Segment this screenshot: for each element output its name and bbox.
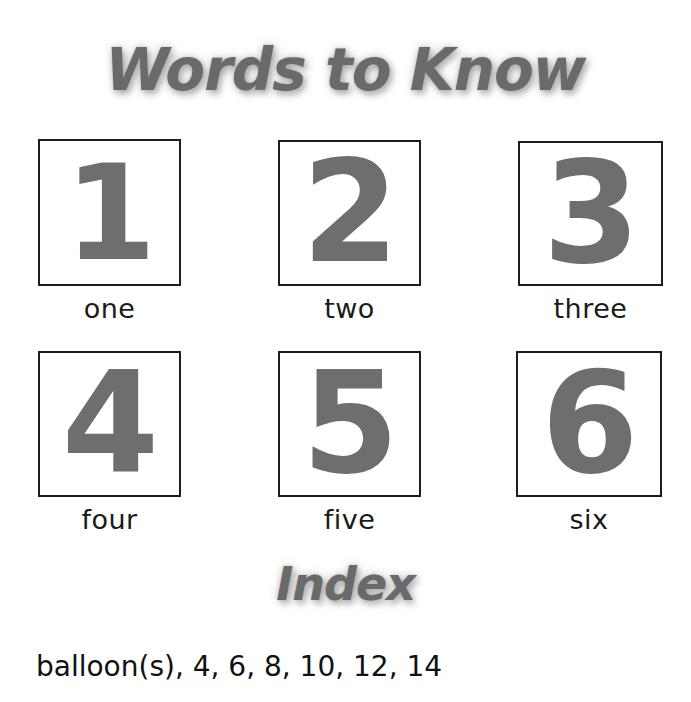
index-entry-balloons: balloon(s), 4, 6, 8, 10, 12, 14	[36, 650, 442, 683]
number-box-five: 5	[278, 351, 421, 497]
number-card-six: 6 six	[516, 351, 662, 541]
number-card-two: 2 two	[278, 140, 421, 330]
word-label-two: two	[278, 293, 421, 324]
number-box-three: 3	[518, 141, 663, 286]
number-card-three: 3 three	[518, 141, 663, 331]
number-box-six: 6	[516, 351, 662, 497]
index-heading-text: Index	[270, 558, 421, 610]
number-card-one: 1 one	[38, 139, 181, 329]
number-box-four: 4	[38, 351, 181, 497]
numeral-six: 6	[541, 354, 636, 494]
number-box-two: 2	[278, 140, 421, 286]
worksheet-page: Words to Know 1 one 2 two 3 three	[0, 0, 691, 702]
number-card-four: 4 four	[38, 351, 181, 541]
numeral-five: 5	[302, 354, 397, 494]
numeral-four: 4	[62, 354, 157, 494]
index-heading: Index	[0, 558, 691, 610]
number-card-five: 5 five	[278, 351, 421, 541]
numeral-two: 2	[302, 143, 397, 283]
word-label-five: five	[278, 504, 421, 535]
word-label-four: four	[38, 504, 181, 535]
number-box-one: 1	[38, 139, 181, 286]
word-label-three: three	[518, 293, 663, 324]
numeral-one: 1	[65, 147, 155, 279]
numeral-three: 3	[543, 144, 638, 284]
word-label-six: six	[516, 504, 662, 535]
word-label-one: one	[38, 293, 181, 324]
